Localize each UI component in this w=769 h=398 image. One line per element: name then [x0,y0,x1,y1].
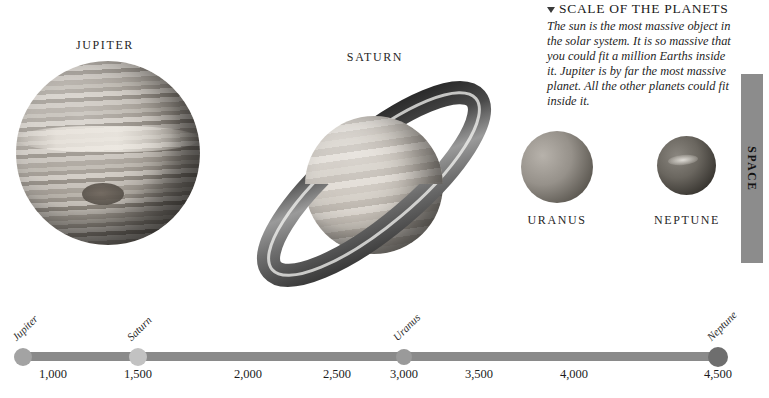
info-panel-heading-text: SCALE OF THE PLANETS [559,1,728,17]
scale-tick-2500: 2,500 [323,367,351,382]
info-panel: SCALE OF THE PLANETS The sun is the most… [547,1,737,110]
scale-tick-4500: 4,500 [704,367,732,382]
scale-tick-2000: 2,000 [234,367,262,382]
distance-scale-chart: JupiterSaturnUranusNeptune 1,0001,5002,0… [0,305,769,398]
scale-tick-3500: 3,500 [465,367,493,382]
scale-point-uranus[interactable] [396,349,412,365]
scale-axis-line [23,352,718,361]
info-panel-body: The sun is the most massive object in th… [547,19,733,110]
scale-point-label-uranus: Uranus [391,311,423,343]
jupiter-limb-shading [16,61,200,245]
scale-tick-1500: 1,500 [124,367,152,382]
scale-tick-4000: 4,000 [560,367,588,382]
scale-tick-1000: 1,000 [39,367,67,382]
planet-caption-uranus: URANUS [497,213,617,228]
neptune-planet-image [657,136,716,195]
section-tab-space[interactable]: SPACE [741,74,763,263]
saturn-limb-shading [305,116,443,254]
planet-caption-neptune: NEPTUNE [627,213,747,228]
uranus-planet-image [521,131,593,203]
scale-point-jupiter[interactable] [14,348,32,366]
planet-caption-saturn: SATURN [315,50,435,65]
scale-point-label-saturn: Saturn [125,314,154,343]
planet-caption-jupiter: JUPITER [45,38,165,53]
info-panel-heading: SCALE OF THE PLANETS [547,1,737,17]
scale-tick-3000: 3,000 [390,367,418,382]
section-tab-label: SPACE [746,146,758,191]
triangle-down-icon [547,7,555,13]
scale-point-label-jupiter: Jupiter [10,312,41,343]
scale-point-label-neptune: Neptune [705,309,739,343]
scale-point-saturn[interactable] [129,348,147,366]
page-root: JUPITER SATURN URANUS NEPTUNE [0,0,769,398]
scale-point-neptune[interactable] [708,347,728,367]
